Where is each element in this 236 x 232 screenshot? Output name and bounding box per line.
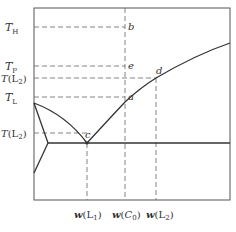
label-TL2-upper: T(L2)	[1, 73, 27, 86]
point-c-marker	[85, 141, 88, 144]
point-c-label: c	[85, 129, 91, 140]
liquidus-right	[87, 43, 230, 143]
label-TL: TL	[5, 91, 17, 106]
solidus-left	[34, 103, 48, 143]
plot-frame	[34, 8, 230, 200]
label-TH: TH	[5, 21, 18, 36]
point-b-label: b	[128, 21, 134, 32]
point-a-label: a	[128, 91, 134, 102]
label-wL1: w(L1)	[74, 209, 102, 222]
liquidus-left	[34, 103, 87, 143]
label-wL2: w(L2)	[146, 209, 174, 222]
label-TL2-lower: T(L2)	[1, 128, 27, 141]
phase-diagram: TH TP T(L2) TL T(L2) b e d a c w(L1) w(C…	[0, 0, 236, 232]
label-wC0: w(C0)	[112, 209, 141, 222]
dashed-guides	[34, 8, 156, 200]
point-e-label: e	[128, 60, 134, 71]
point-d-label: d	[156, 65, 162, 76]
solvus-left	[34, 143, 48, 173]
